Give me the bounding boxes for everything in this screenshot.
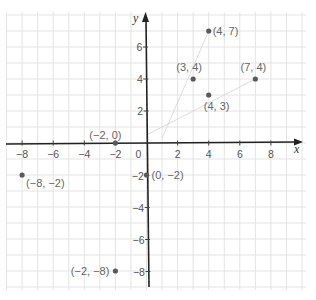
x-axis-label: x xyxy=(293,142,300,156)
point-label: (7, 4) xyxy=(241,61,267,73)
y-tick-label: 4 xyxy=(137,73,143,85)
data-point xyxy=(113,268,118,273)
y-tick-label: 6 xyxy=(137,41,143,53)
data-point xyxy=(113,140,118,145)
x-axis xyxy=(6,142,296,144)
y-tick-label: −2 xyxy=(132,170,144,182)
x-tick-label: 2 xyxy=(175,148,181,160)
point-label: (−2, 0) xyxy=(89,129,121,141)
y-tick-label: −6 xyxy=(133,234,145,246)
x-tick-label: 6 xyxy=(237,148,243,160)
x-tick-label: −6 xyxy=(47,148,59,160)
point-label: (0, −2) xyxy=(152,169,184,181)
x-tick-label: −4 xyxy=(78,148,90,160)
x-tick-label: 0 xyxy=(136,148,142,160)
data-point xyxy=(206,28,211,33)
data-point xyxy=(191,76,196,81)
point-label: (4, 7) xyxy=(213,25,239,37)
data-point xyxy=(253,76,258,81)
x-tick-label: 8 xyxy=(268,148,274,160)
point-label: (4, 3) xyxy=(204,100,230,112)
x-tick-label: −2 xyxy=(109,148,121,160)
point-label: (3, 4) xyxy=(176,61,202,73)
y-axis-arrow-icon xyxy=(142,12,149,22)
x-tick-label: 4 xyxy=(206,148,212,160)
x-tick-label: −8 xyxy=(16,148,28,160)
y-axis-label: y xyxy=(132,11,139,25)
y-tick-label: −8 xyxy=(133,266,145,278)
y-tick-label: 2 xyxy=(137,105,143,117)
y-tick-label: −4 xyxy=(132,202,144,214)
data-point xyxy=(206,92,211,97)
point-label: (−8, −2) xyxy=(26,177,65,189)
data-point xyxy=(144,172,149,177)
data-point xyxy=(20,172,25,177)
coordinate-plane: x y −8−6−4−202468−8−6−4−2246 (4, 7)(3, 4… xyxy=(0,0,316,300)
point-label: (−2, −8) xyxy=(71,265,110,277)
